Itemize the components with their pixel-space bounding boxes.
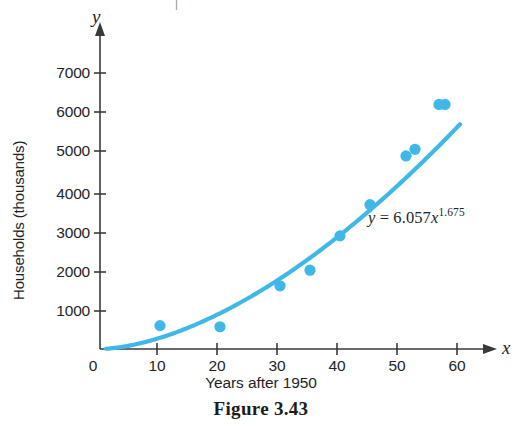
y-axis [94, 22, 106, 349]
x-axis [100, 343, 497, 355]
ytick-label-2000: 2000 [32, 263, 90, 281]
x-axis-variable-label: x [502, 337, 510, 359]
equation-exponent: 1.675 [438, 206, 464, 218]
xtick-label-60: 60 [440, 357, 474, 375]
xtick-label-30: 30 [260, 357, 294, 375]
data-point [400, 150, 411, 161]
y-axis-title: Households (thousands) [10, 141, 27, 300]
regression-equation-label: y = 6.057x1.675 [368, 206, 465, 228]
data-point [214, 321, 225, 332]
xtick-label-40: 40 [320, 357, 354, 375]
xtick-label-20: 20 [200, 357, 234, 375]
xtick-label-10: 10 [140, 357, 174, 375]
figure-caption: Figure 3.43 [0, 398, 522, 420]
ytick-label-1000: 1000 [32, 302, 90, 320]
y-axis-variable-label: y [92, 6, 100, 28]
ytick-label-3000: 3000 [32, 224, 90, 242]
equation-coefficient: 6.057 [393, 208, 431, 227]
ytick-label-4000: 4000 [32, 185, 90, 203]
data-point [274, 280, 285, 291]
data-point [154, 320, 165, 331]
figure-container: | [0, 0, 522, 432]
ytick-label-7000: 7000 [32, 64, 90, 82]
data-point [304, 265, 315, 276]
data-point [439, 99, 450, 110]
x-axis-title: Years after 1950 [0, 374, 522, 392]
equation-lhs: y [368, 208, 375, 227]
xtick-label-0: 0 [76, 357, 110, 375]
data-point [409, 144, 420, 155]
ytick-label-5000: 5000 [32, 142, 90, 160]
xtick-label-50: 50 [380, 357, 414, 375]
data-point [334, 230, 345, 241]
ytick-label-6000: 6000 [32, 103, 90, 121]
equation-equals: = [380, 208, 389, 227]
